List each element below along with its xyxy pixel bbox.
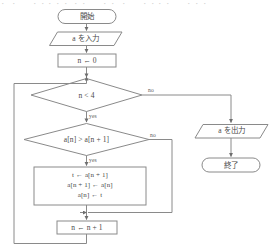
start-terminal-shape (58, 10, 116, 24)
output-parallelogram-shape (195, 125, 268, 139)
end-terminal-shape (202, 158, 260, 172)
edge-label-loop-no: no (148, 87, 154, 93)
edge-loop-no-to-output (142, 95, 231, 123)
increment-process-shape (57, 221, 117, 234)
flowchart-canvas: ・ ・ ・・・・・ ・・ ・・ ・ ・・・・ ・・・ (0, 0, 275, 250)
swap-process-shape (34, 167, 146, 205)
edge-label-compare-no: no (150, 132, 156, 138)
flowchart-graphics (0, 0, 275, 250)
init-process-shape (58, 54, 116, 67)
edge-label-compare-yes: yes (89, 157, 97, 163)
compare-decision-shape (24, 124, 149, 156)
input-parallelogram-shape (50, 32, 123, 46)
edge-label-loop-yes: yes (89, 113, 97, 119)
